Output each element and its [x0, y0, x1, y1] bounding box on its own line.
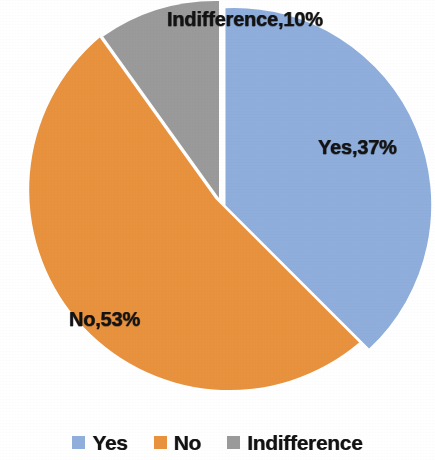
chart-legend: Yes No Indifference [0, 424, 435, 460]
pie-label-no: No,53% [69, 308, 140, 331]
pie-label-indifference: Indifference,10% [167, 8, 323, 31]
legend-label-no: No [174, 432, 201, 453]
legend-item-indifference[interactable]: Indifference [227, 432, 362, 453]
legend-label-indifference: Indifference [247, 432, 362, 453]
legend-swatch-yes-icon [72, 436, 85, 449]
pie-chart: Indifference,10% Yes,37% No,53% Yes No I… [0, 0, 435, 460]
legend-swatch-indifference-icon [227, 436, 240, 449]
legend-swatch-no-icon [154, 436, 167, 449]
legend-item-yes[interactable]: Yes [72, 432, 127, 453]
pie-plot-area [0, 0, 435, 415]
pie-label-yes: Yes,37% [318, 136, 397, 159]
legend-item-no[interactable]: No [154, 432, 201, 453]
legend-label-yes: Yes [92, 432, 127, 453]
